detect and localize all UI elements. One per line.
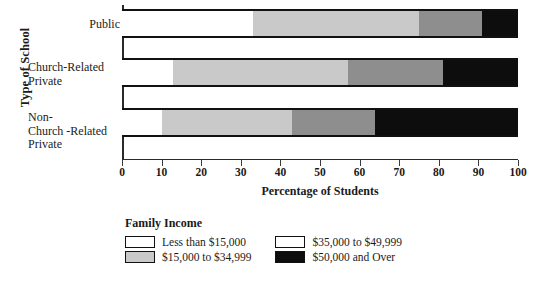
bar-segment	[419, 11, 482, 36]
bar-segment	[482, 11, 518, 36]
bar-segment	[348, 60, 443, 85]
plot-area	[122, 5, 518, 160]
bar-non-church-related-private	[122, 108, 518, 137]
legend-item-label: $50,000 and Over	[312, 251, 395, 263]
category-label-public: Public	[24, 18, 120, 32]
bar-segment	[375, 110, 518, 135]
legend-item-label: Less than $15,000	[162, 236, 246, 248]
x-axis-tick-label: 100	[509, 166, 526, 178]
x-axis-title: Percentage of Students	[122, 184, 518, 199]
legend-items: Less than $15,000 $35,000 to $49,999 $15…	[125, 236, 402, 263]
legend-title: Family Income	[125, 216, 402, 231]
bar-segment	[122, 110, 162, 135]
category-label-line: Church-Related	[28, 61, 124, 75]
x-axis-tick-label: 20	[195, 166, 207, 178]
x-axis-tick-label: 10	[156, 166, 168, 178]
category-label-line: Private	[28, 138, 124, 152]
bar-public	[122, 9, 518, 38]
bar-segment	[122, 60, 173, 85]
x-axis-tick-label: 90	[473, 166, 485, 178]
x-axis-tick-labels: 0102030405060708090100	[122, 166, 518, 182]
bar-segment	[253, 11, 419, 36]
black-swatch-icon	[275, 251, 305, 263]
category-label-line: Church -Related	[28, 125, 124, 139]
legend-item-label: $35,000 to $49,999	[312, 236, 401, 248]
category-label-line: Public	[24, 18, 120, 32]
bar-segment	[443, 60, 518, 85]
legend: Family Income Less than $15,000 $35,000 …	[125, 216, 402, 263]
legend-item[interactable]: $15,000 to $34,999	[125, 251, 251, 263]
category-label-line: Private	[28, 75, 124, 89]
bar-segment	[173, 60, 347, 85]
x-axis-tick-label: 0	[119, 166, 125, 178]
white-swatch-icon	[275, 236, 305, 248]
white-swatch-icon	[125, 236, 155, 248]
x-axis-tick-label: 60	[354, 166, 366, 178]
x-axis-tick-label: 30	[235, 166, 247, 178]
category-label-non-church-related-private: Non- Church -Related Private	[28, 111, 124, 152]
bar-church-related-private	[122, 58, 518, 87]
legend-item[interactable]: $35,000 to $49,999	[275, 236, 401, 248]
category-label-church-related-private: Church-Related Private	[28, 61, 124, 88]
x-axis-tick-label: 70	[393, 166, 405, 178]
light-gray-swatch-icon	[125, 251, 155, 263]
bar-segment	[162, 110, 293, 135]
chart-container: Type of School Public Church-Related Pri…	[0, 0, 544, 287]
bar-segment	[292, 110, 375, 135]
x-axis-tick-label: 50	[314, 166, 326, 178]
bar-segment	[122, 11, 253, 36]
legend-item[interactable]: $50,000 and Over	[275, 251, 401, 263]
legend-item-label: $15,000 to $34,999	[162, 251, 251, 263]
legend-item[interactable]: Less than $15,000	[125, 236, 251, 248]
x-axis-tick-label: 80	[433, 166, 445, 178]
x-axis-tick-label: 40	[275, 166, 287, 178]
category-label-line: Non-	[28, 111, 124, 125]
